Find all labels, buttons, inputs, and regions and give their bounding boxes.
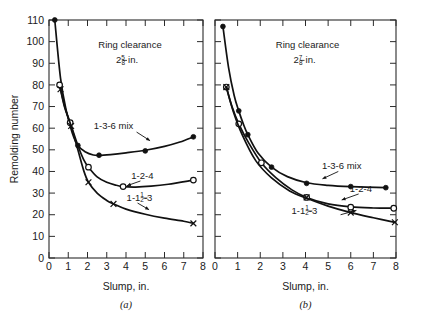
data-point-1-3-6-mix <box>245 132 250 137</box>
plot-panel-a: 01234567801020304050607080901001101-3-6 … <box>8 14 206 311</box>
x-tick-label: 6 <box>162 260 168 272</box>
data-point-1-3-6-mix <box>221 24 226 29</box>
y-tick-label: 20 <box>32 208 44 220</box>
ring-clearance-value: 278in. <box>294 54 316 66</box>
x-tick-label: 3 <box>280 260 286 272</box>
y-tick-label: 30 <box>32 187 44 199</box>
data-point-1-2-4 <box>348 204 354 210</box>
plot-frame <box>49 20 203 258</box>
series-curve <box>61 89 194 223</box>
series-leader-arrow <box>127 183 131 186</box>
data-point-1-3-6-mix <box>269 165 274 170</box>
x-tick-label: 0 <box>212 260 218 272</box>
x-tick-label: 5 <box>325 260 331 272</box>
x-axis-title: Slump, in. <box>282 280 329 292</box>
y-tick-label: 100 <box>26 35 44 47</box>
x-tick-label: 6 <box>348 260 354 272</box>
series-1-2-4: 1-2-4 <box>57 82 196 189</box>
data-point-1-2-4 <box>191 177 197 183</box>
series-curve <box>226 87 395 222</box>
x-tick-label: 2 <box>85 260 91 272</box>
x-tick-label: 0 <box>46 260 52 272</box>
series-label: 1-3-6 mix <box>322 160 362 171</box>
x-tick-label: 1 <box>235 260 241 272</box>
panel-letter: (a) <box>120 299 133 311</box>
remolding-number-vs-slump-chart: 01234567801020304050607080901001101-3-6 … <box>0 0 433 321</box>
data-point-1-2-4 <box>391 205 397 211</box>
x-tick-label: 4 <box>303 260 309 272</box>
x-tick-label: 7 <box>370 260 376 272</box>
series-label: 1-2-4 <box>131 170 153 181</box>
ring-clearance-label: Ring clearance <box>98 39 161 50</box>
series-1-1-3: 1-112-3 <box>58 86 197 226</box>
series-label: 1-2-4 <box>350 183 372 194</box>
data-point-1-2-4 <box>86 164 92 170</box>
x-tick-label: 8 <box>200 260 206 272</box>
y-tick-label: 10 <box>32 230 44 242</box>
x-axis-title: Slump, in. <box>103 280 150 292</box>
series-label: 1-112-3 <box>127 191 153 203</box>
data-point-1-3-6-mix <box>191 134 196 139</box>
x-tick-label: 4 <box>123 260 129 272</box>
y-axis: 0102030405060708090100110 <box>26 14 203 264</box>
data-point-1-3-6-mix <box>143 149 148 154</box>
x-tick-label: 1 <box>65 260 71 272</box>
data-point-1-3-6-mix <box>236 108 241 113</box>
x-tick-label: 2 <box>257 260 263 272</box>
y-tick-label: 40 <box>32 165 44 177</box>
x-tick-label: 8 <box>393 260 399 272</box>
y-tick-label: 70 <box>32 100 44 112</box>
y-axis-title: Remolding number <box>8 94 20 183</box>
series-leader-arrow <box>342 197 346 200</box>
x-tick-label: 3 <box>104 260 110 272</box>
y-tick-label: 90 <box>32 57 44 69</box>
data-point-1-3-6-mix <box>304 181 309 186</box>
y-tick-label: 0 <box>38 252 44 264</box>
ring-clearance-annotation: Ring clearance258in. <box>98 39 161 66</box>
x-axis: 012345678 <box>46 20 206 272</box>
series-curve <box>60 85 194 187</box>
data-point-1-2-4 <box>120 184 126 190</box>
panel-letter: (b) <box>299 299 312 311</box>
figure-container: 01234567801020304050607080901001101-3-6 … <box>0 0 433 321</box>
x-tick-label: 5 <box>142 260 148 272</box>
ring-clearance-annotation: Ring clearance278in. <box>276 39 339 66</box>
ring-clearance-label: Ring clearance <box>276 39 339 50</box>
x-tick-label: 7 <box>181 260 187 272</box>
y-tick-label: 80 <box>32 79 44 91</box>
data-point-1-3-6-mix <box>97 153 102 158</box>
ring-clearance-value: 258in. <box>116 54 138 66</box>
y-tick-label: 50 <box>32 143 44 155</box>
y-tick-label: 60 <box>32 122 44 134</box>
plot-panel-b: 0123456781-3-6 mix1-2-41-112-3Ring clear… <box>212 20 399 311</box>
series-1-1-3: 1-112-3 <box>223 84 397 225</box>
series-1-2-4: 1-2-4 <box>224 84 397 211</box>
series-label: 1-112-3 <box>292 204 318 216</box>
data-point-1-1-3 <box>86 179 92 185</box>
series-label: 1-3-6 mix <box>94 120 134 131</box>
data-point-1-3-6-mix <box>52 18 57 23</box>
data-point-1-3-6-mix <box>383 185 388 190</box>
y-tick-label: 110 <box>27 14 44 26</box>
